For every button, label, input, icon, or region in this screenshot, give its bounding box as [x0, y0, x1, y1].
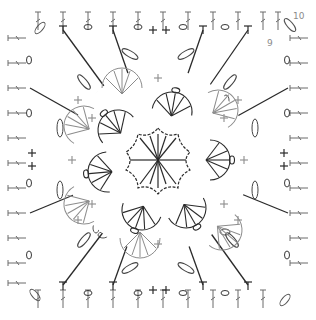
border-top-outer [35, 12, 281, 30]
border-right-outer [290, 35, 308, 266]
border-left-inner [27, 56, 37, 259]
crochet-chart: 10 9 [0, 0, 316, 320]
border-bottom-outer [35, 290, 266, 308]
round-label-10: 10 [293, 11, 305, 21]
border-left-outer [8, 35, 26, 286]
round-label-9: 9 [267, 38, 273, 48]
border-right-inner [280, 56, 290, 259]
